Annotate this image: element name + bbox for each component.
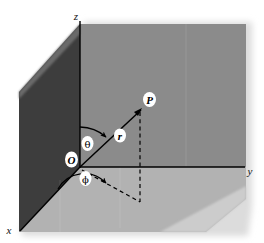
x-axis-label: x (6, 224, 12, 236)
theta-angle-label: θ (84, 139, 90, 150)
yz-plane-group (80, 24, 246, 167)
coordinate-diagram-svg: z y x O P r θ ϕ (0, 0, 264, 243)
radius-length-label: r (118, 130, 123, 142)
spherical-coordinates-figure: z y x O P r θ ϕ (0, 0, 264, 243)
origin-point-label: O (68, 154, 76, 166)
z-axis-label: z (73, 10, 79, 22)
phi-angle-label: ϕ (82, 174, 89, 185)
p-point-label: P (146, 94, 153, 106)
y-axis-label: y (247, 165, 253, 177)
yz-plane (80, 24, 246, 167)
